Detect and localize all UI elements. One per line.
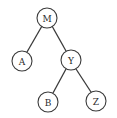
edge-m-a [27, 26, 42, 52]
node-y: Y [61, 50, 81, 70]
node-label-b: B [45, 98, 52, 108]
node-label-y: Y [67, 56, 75, 66]
node-a: A [12, 51, 32, 71]
edge-y-z [76, 69, 91, 92]
node-label-m: M [42, 14, 51, 24]
edge-m-y [52, 26, 66, 51]
node-m: M [37, 8, 57, 28]
edge-y-b [53, 69, 66, 93]
tree-diagram: M A Y B Z [0, 0, 117, 118]
node-z: Z [86, 91, 106, 111]
node-label-z: Z [93, 97, 99, 107]
node-b: B [38, 92, 58, 112]
node-label-a: A [18, 57, 26, 67]
